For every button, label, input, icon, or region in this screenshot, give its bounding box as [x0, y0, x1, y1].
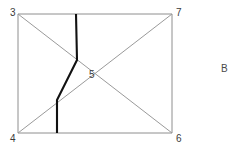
node-label-5: 5	[89, 69, 95, 80]
node-label-7: 7	[176, 7, 182, 18]
node-label-4: 4	[10, 133, 16, 144]
node-label-3: 3	[10, 7, 16, 18]
node-label-6: 6	[176, 133, 182, 144]
thick-polyline-path	[57, 14, 77, 133]
geometry-diagram: 3 7 4 6 5	[0, 0, 245, 144]
diagram-canvas: 3 7 4 6 5 B	[0, 0, 245, 144]
figure-side-label: B	[221, 64, 228, 74]
